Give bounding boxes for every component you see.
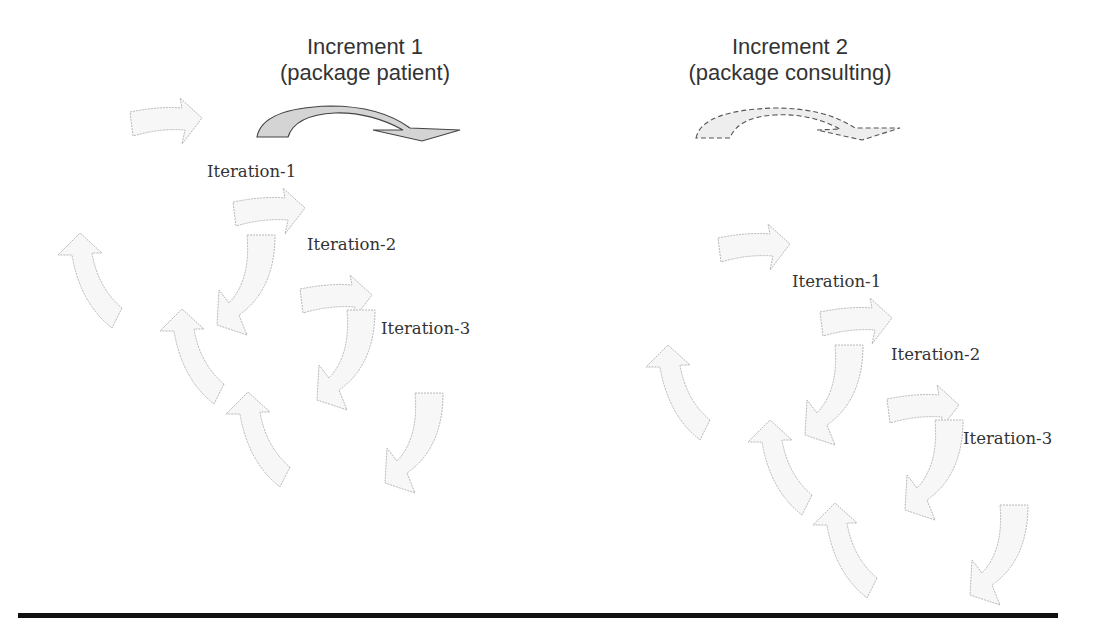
increment-1-title-line2: (package patient): [250, 60, 480, 86]
cycle-arrow-right-icon: [130, 98, 202, 144]
cycle-arrow-up-left-icon: [813, 503, 877, 598]
increment-2-iteration-3-label: Iteration-3: [963, 429, 1052, 448]
cycle-arrow-down-left-icon: [385, 393, 443, 493]
increment-2-title: Increment 2 (package consulting): [670, 34, 910, 86]
cycle-arrow-up-left-icon: [160, 309, 224, 404]
increment-1-title-line1: Increment 1: [250, 34, 480, 60]
cycle-arrow-up-left-icon: [226, 392, 290, 487]
increment-1-iteration-2-label: Iteration-2: [307, 235, 396, 254]
increment-1-iteration-3-label: Iteration-3: [381, 319, 470, 338]
increment-2-title-line1: Increment 2: [670, 34, 910, 60]
increment-2-iteration-1-label: Iteration-1: [792, 272, 881, 291]
increment-1-title: Increment 1 (package patient): [250, 34, 480, 86]
increment-1-arrow-icon: [257, 106, 460, 141]
diagram-canvas: [0, 0, 1100, 624]
cycle-arrow-up-left-icon: [646, 345, 710, 440]
cycle-arrow-right-icon: [820, 298, 892, 344]
increment-1-cycles: [58, 98, 443, 493]
timeline-baseline: [18, 613, 1058, 618]
increment-2-title-line2: (package consulting): [670, 60, 910, 86]
cycle-arrow-down-left-icon: [905, 420, 963, 520]
increment-2-arrow-icon: [696, 108, 900, 140]
cycle-arrow-down-left-icon: [805, 345, 863, 445]
increment-1-iteration-1-label: Iteration-1: [207, 162, 296, 181]
cycle-arrow-up-left-icon: [748, 420, 812, 515]
cycle-arrow-right-icon: [233, 188, 305, 234]
cycle-arrow-down-left-icon: [217, 235, 275, 335]
cycle-arrow-down-left-icon: [970, 505, 1028, 605]
increment-2-iteration-2-label: Iteration-2: [891, 345, 980, 364]
cycle-arrow-down-left-icon: [317, 310, 375, 410]
cycle-arrow-right-icon: [718, 224, 790, 270]
cycle-arrow-up-left-icon: [58, 233, 122, 328]
